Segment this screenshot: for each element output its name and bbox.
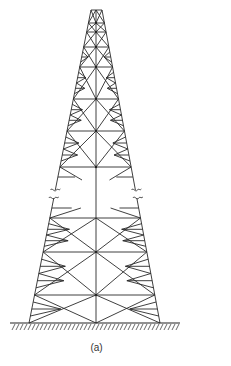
diagonal [96, 218, 141, 252]
diagonal [96, 131, 124, 167]
sub-diagonal [39, 266, 66, 273]
sub-diagonal [123, 241, 146, 247]
ground-hatch [72, 324, 75, 330]
ground-hatch [20, 324, 23, 330]
ground-hatch [92, 324, 95, 330]
ground-hatch [112, 324, 115, 330]
ground-hatch [56, 324, 59, 330]
ground-hatch [68, 324, 71, 330]
sub-diagonal [64, 143, 79, 149]
ground-hatch [28, 324, 31, 330]
sub-diagonal [107, 83, 115, 88]
ground-hatch [116, 324, 119, 330]
ground-hatch [140, 324, 143, 330]
ground-hatch [88, 324, 91, 330]
sub-diagonal [127, 281, 154, 288]
sub-diagonal [44, 241, 68, 247]
diagonal [60, 131, 96, 167]
break-mark-right [131, 189, 141, 191]
ground-hatch [176, 324, 179, 330]
ground-hatch [156, 324, 159, 330]
sub-diagonal [68, 120, 81, 125]
ground-hatch [76, 324, 79, 330]
ground-hatch [84, 324, 87, 330]
ground-hatch [52, 324, 55, 330]
tower-drawing [0, 0, 231, 366]
ground-hatch [168, 324, 171, 330]
diagonal [96, 99, 124, 131]
break-mark-left [49, 197, 59, 199]
diagonal [96, 218, 147, 252]
diagonal [50, 218, 96, 252]
sub-diagonal [77, 83, 85, 88]
ground-hatch [64, 324, 67, 330]
diagonal [110, 167, 132, 180]
ground-hatch [100, 324, 103, 330]
sub-diagonal [79, 72, 86, 77]
diagonal [60, 167, 82, 180]
diagonal [50, 208, 81, 218]
ground-hatch [96, 324, 99, 330]
diagonal [96, 67, 113, 99]
ground-hatch [132, 324, 135, 330]
ground-hatch [120, 324, 123, 330]
ground-hatch [44, 324, 47, 330]
ground-hatch [144, 324, 147, 330]
ground-hatch [32, 324, 35, 330]
diagonal [67, 99, 96, 131]
ground-hatch [24, 324, 27, 330]
sub-diagonal [111, 120, 124, 125]
ground-hatch [80, 324, 83, 330]
sub-diagonal [107, 88, 117, 93]
ground-hatch [160, 324, 163, 330]
sub-diagonal [130, 309, 159, 316]
ground-hatch [124, 324, 127, 330]
sub-diagonal [74, 88, 84, 93]
right-leg [102, 10, 135, 190]
joint-node [95, 166, 97, 168]
ground-hatch [172, 324, 175, 330]
diagonal [67, 131, 96, 167]
diagonal [43, 218, 96, 252]
ground-hatch [164, 324, 167, 330]
sub-diagonal [110, 110, 122, 115]
diagonal [35, 252, 97, 295]
diagonal [73, 99, 96, 131]
sub-diagonal [30, 309, 60, 316]
sub-diagonal [46, 229, 69, 235]
break-mark-right [133, 197, 143, 199]
sub-diagonal [36, 281, 64, 288]
sub-diagonal [70, 110, 82, 115]
sub-diagonal [61, 155, 77, 161]
sub-diagonal [125, 266, 150, 273]
diagonal [96, 99, 119, 131]
figure-caption: (a) [0, 342, 193, 353]
diagonal [43, 252, 96, 295]
diagonal [96, 252, 155, 295]
ground-hatch [128, 324, 131, 330]
sub-diagonal [113, 143, 128, 149]
sub-diagonal [77, 78, 86, 83]
ground-hatch [12, 324, 15, 330]
ground-hatch [136, 324, 139, 330]
ground-hatch [48, 324, 51, 330]
diagonal [96, 252, 147, 295]
ground-hatch [36, 324, 39, 330]
ground-hatch [148, 324, 151, 330]
ground-hatch [104, 324, 107, 330]
sub-diagonal [114, 155, 130, 161]
sub-diagonal [122, 229, 144, 235]
diagonal [111, 208, 141, 218]
sub-diagonal [106, 78, 115, 83]
ground-hatch [16, 324, 19, 330]
diagonal [80, 67, 96, 99]
ground-hatch [60, 324, 63, 330]
ground-hatch [152, 324, 155, 330]
left-leg [55, 10, 91, 190]
ground-hatch [108, 324, 111, 330]
ground-hatch [40, 324, 43, 330]
